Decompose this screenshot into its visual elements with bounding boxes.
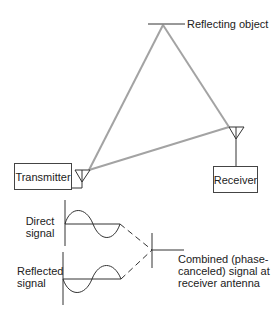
receiver-label: Receiver — [214, 174, 257, 186]
path-transmitter-to-reflector — [89, 25, 163, 170]
reflected-signal-label: Reflected signal — [17, 265, 63, 289]
path-direct — [89, 127, 229, 170]
direct-dash-line — [120, 224, 152, 250]
transmitter-antenna-icon — [71, 170, 90, 188]
reflected-dash-line — [121, 250, 152, 279]
path-reflector-to-receiver — [163, 25, 229, 127]
direct-signal-waveform — [65, 200, 120, 246]
reflecting-object-label: Reflecting object — [187, 18, 268, 30]
reflected-signal-waveform — [63, 252, 121, 305]
direct-signal-label: Direct signal — [22, 215, 58, 239]
receiver-antenna-icon — [229, 127, 244, 166]
transmitter-label: Transmitter — [15, 171, 70, 183]
transmitter-box: Transmitter — [14, 163, 72, 190]
combined-signal-label: Combined (phase- canceled) signal at rec… — [178, 253, 270, 289]
receiver-box: Receiver — [213, 166, 258, 193]
